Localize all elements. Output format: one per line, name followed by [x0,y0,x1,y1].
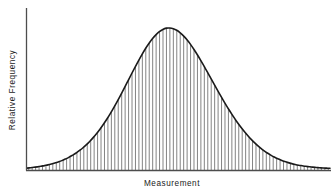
y-axis-label: Relative Frequency [8,49,17,130]
distribution-chart: Relative Frequency Measurement [0,0,336,193]
histogram-figure: Relative Frequency Measurement [0,0,336,193]
x-axis-label: Measurement [144,179,200,188]
